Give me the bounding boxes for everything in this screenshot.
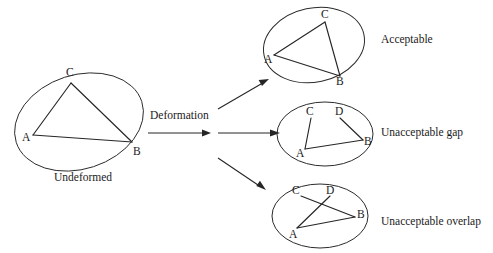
deformation-diagram: A B C A B C A B C D A B C D Undeformed D… [0,0,493,253]
gap-edge-d-b [340,118,363,140]
acceptable-group [256,0,371,92]
gap-ellipse [277,102,373,166]
deformation-arrow-head [202,130,211,137]
overlap-vertex-label-a: A [289,228,298,240]
fan-arrow-to-overlap [218,158,266,190]
acceptable-ellipse [256,0,371,92]
deformation-caption: Deformation [150,110,209,122]
gap-group [277,102,373,166]
unacceptable-overlap-caption: Unacceptable overlap [381,216,481,228]
fan-arrow-to-acceptable [218,79,269,109]
acceptable-vertex-label-c: C [321,8,329,20]
undeformed-caption: Undeformed [54,172,112,184]
overlap-vertex-label-d: D [326,184,334,196]
gap-vertex-label-c: C [306,105,314,117]
gap-edge-a-c [305,118,311,149]
undeformed-edge-a-b [33,135,132,142]
fan-arrow-acceptable-line [218,84,261,109]
undeformed-vertex-label-a: A [22,131,31,143]
acceptable-vertex-label-b: B [336,75,344,87]
undeformed-group [2,57,157,187]
acceptable-edge-a-c [274,22,325,55]
undeformed-vertex-label-c: C [66,66,74,78]
undeformed-vertex-label-b: B [133,145,141,157]
undeformed-edge-c-b [71,83,132,142]
gap-vertex-label-b: B [364,135,372,147]
gap-vertex-label-d: D [335,105,343,117]
acceptable-edge-c-b [325,22,340,76]
unacceptable-gap-caption: Unacceptable gap [381,127,463,139]
gap-edge-a-b [305,140,363,149]
fan-arrow-overlap-line [218,158,258,185]
overlap-edge-c-b [301,196,355,217]
overlap-edge-a-b [297,217,355,228]
deformation-arrow [148,130,211,137]
gap-vertex-label-a: A [296,147,305,159]
fan-arrow-gap-head [270,129,280,136]
undeformed-ellipse [2,57,157,187]
fan-arrow-overlap-head [256,181,266,190]
overlap-group [272,184,368,248]
acceptable-caption: Acceptable [381,34,433,46]
overlap-vertex-label-c: C [292,184,300,196]
overlap-vertex-label-b: B [357,208,365,220]
acceptable-vertex-label-a: A [264,53,273,65]
acceptable-edge-a-b [274,55,340,76]
fan-arrow-to-gap [218,129,280,136]
